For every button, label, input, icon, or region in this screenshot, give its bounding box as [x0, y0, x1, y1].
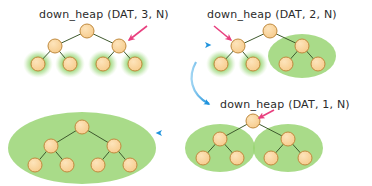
tree-node	[231, 39, 245, 53]
tree-node	[214, 57, 228, 71]
tree-node	[107, 139, 121, 153]
pointer-step-2	[214, 26, 231, 40]
tree-node	[311, 57, 325, 71]
tree-node	[28, 158, 42, 172]
caption-step-2: down_heap (DAT, 2, N)	[207, 8, 337, 21]
tree-node	[246, 114, 260, 128]
hl-subtree-right-2	[253, 124, 323, 172]
pointer-step-1	[259, 110, 274, 118]
tree-node	[196, 151, 210, 165]
tree-node	[75, 120, 89, 134]
tree-node	[263, 24, 277, 38]
tree-node	[31, 57, 45, 71]
diagram-canvas	[0, 0, 372, 186]
caption-step-3: down_heap (DAT, 3, N)	[39, 8, 169, 21]
tree-node	[281, 132, 295, 146]
tree-node	[230, 151, 244, 165]
tree-node	[128, 57, 142, 71]
tree-node	[96, 57, 110, 71]
hl-subtree-left-2	[185, 124, 255, 172]
tree-node	[48, 39, 62, 53]
flow-arrow-layer	[157, 45, 210, 133]
tree-node	[91, 158, 105, 172]
tree-node	[44, 139, 58, 153]
tree-node	[213, 132, 227, 146]
pointer-step-3	[129, 26, 147, 40]
tree-node	[279, 57, 293, 71]
tree-node	[123, 158, 137, 172]
tree-node	[264, 151, 278, 165]
tree-node	[295, 39, 309, 53]
tree-node	[63, 57, 77, 71]
tree-node	[112, 39, 126, 53]
tree-node	[80, 24, 94, 38]
heap-construction-diagram: down_heap (DAT, 3, N)down_heap (DAT, 2, …	[0, 0, 372, 186]
tree-node	[60, 158, 74, 172]
flow-arrow-curved-down	[192, 62, 209, 104]
caption-step-1: down_heap (DAT, 1, N)	[220, 98, 350, 111]
tree-node	[298, 151, 312, 165]
tree-node	[246, 57, 260, 71]
